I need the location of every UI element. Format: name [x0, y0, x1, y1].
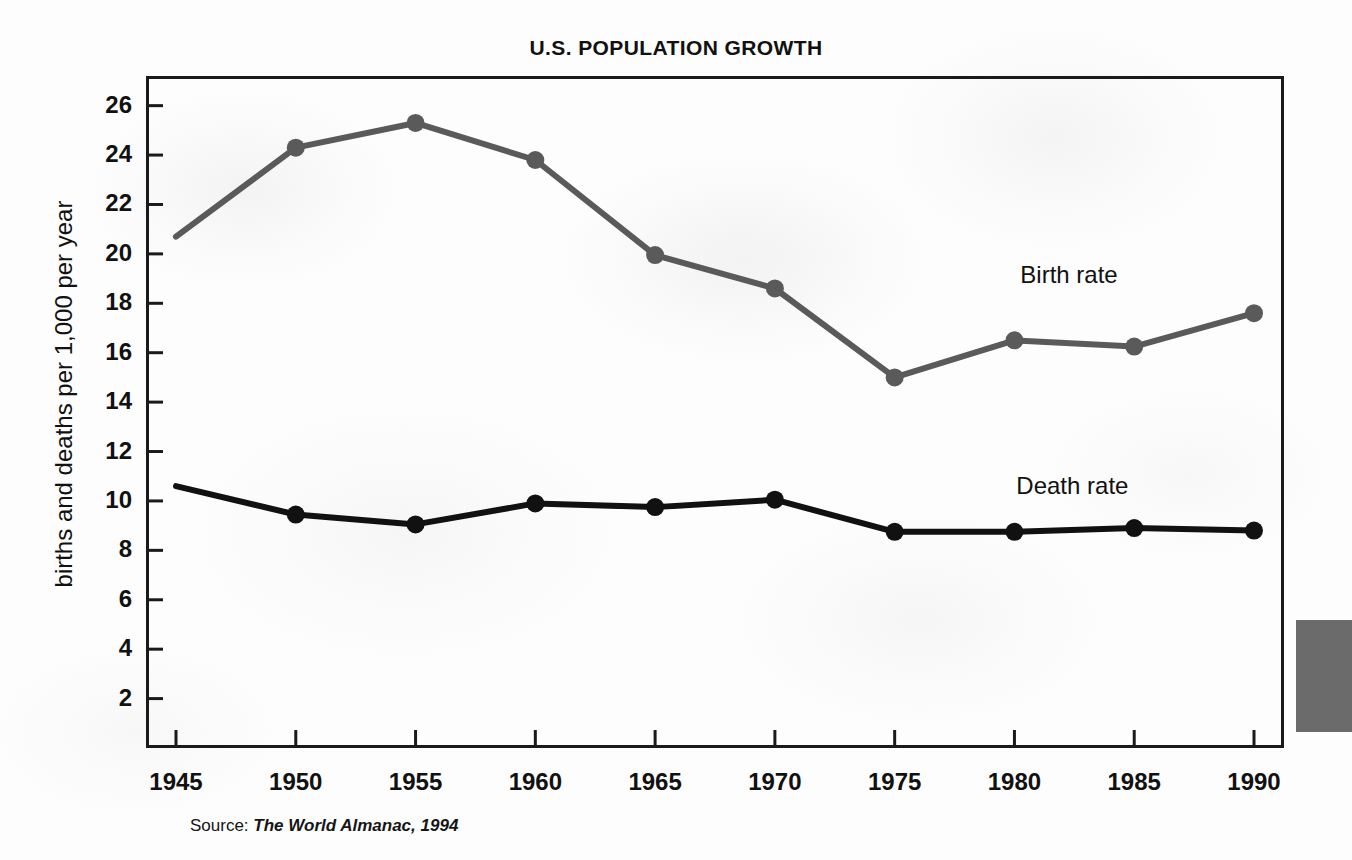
data-point-marker: [1005, 523, 1023, 541]
series-label-death-rate: Death rate: [1016, 472, 1128, 500]
x-tick-label: 1975: [835, 770, 955, 794]
x-tick-label: 1990: [1194, 770, 1314, 794]
source-reference: The World Almanac, 1994: [253, 816, 458, 835]
y-tick-label: 20: [76, 241, 132, 265]
data-point-marker: [526, 151, 544, 169]
y-tick-label: 18: [76, 290, 132, 314]
y-tick-label: 16: [76, 340, 132, 364]
y-tick-label: 6: [76, 587, 132, 611]
y-tick-label: 14: [76, 389, 132, 413]
x-tick-label: 1965: [595, 770, 715, 794]
source-note: Source: The World Almanac, 1994: [190, 816, 458, 836]
x-tick-label: 1960: [475, 770, 595, 794]
series-line-birth-rate: [176, 123, 1254, 377]
data-point-marker: [766, 491, 784, 509]
y-tick-label: 26: [76, 93, 132, 117]
plot-area: [146, 76, 1284, 748]
data-point-marker: [1245, 304, 1263, 322]
data-point-marker: [766, 279, 784, 297]
data-point-marker: [1245, 522, 1263, 540]
y-axis-ticks: [146, 106, 163, 699]
y-tick-label: 10: [76, 488, 132, 512]
y-tick-label: 8: [76, 537, 132, 561]
x-axis-ticks: [176, 730, 1254, 748]
y-tick-label: 24: [76, 142, 132, 166]
data-point-marker: [407, 515, 425, 533]
page-title: U.S. POPULATION GROWTH: [0, 36, 1352, 60]
y-tick-label: 12: [76, 439, 132, 463]
source-prefix: Source:: [190, 816, 249, 835]
data-point-marker: [1125, 519, 1143, 537]
series-label-birth-rate: Birth rate: [1020, 261, 1117, 289]
data-point-marker: [646, 246, 664, 264]
data-point-marker: [886, 368, 904, 386]
y-axis-title: births and deaths per 1,000 per year: [50, 134, 78, 654]
x-tick-label: 1970: [715, 770, 835, 794]
y-tick-label: 22: [76, 191, 132, 215]
y-tick-label: 4: [76, 636, 132, 660]
chart-page: U.S. POPULATION GROWTH births and deaths…: [0, 0, 1352, 860]
x-tick-label: 1945: [116, 770, 236, 794]
y-tick-label: 2: [76, 686, 132, 710]
x-tick-label: 1985: [1074, 770, 1194, 794]
data-point-marker: [886, 523, 904, 541]
data-point-marker: [646, 498, 664, 516]
data-point-marker: [526, 494, 544, 512]
data-point-marker: [407, 114, 425, 132]
x-tick-label: 1980: [954, 770, 1074, 794]
data-point-marker: [1125, 338, 1143, 356]
x-tick-label: 1950: [236, 770, 356, 794]
data-point-marker: [287, 506, 305, 524]
data-point-marker: [287, 139, 305, 157]
page-edge-artifact: [1296, 620, 1352, 732]
x-tick-label: 1955: [356, 770, 476, 794]
data-point-marker: [1005, 331, 1023, 349]
